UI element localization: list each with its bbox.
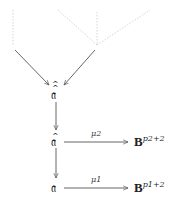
- arrow-right-to-top: [64, 50, 95, 85]
- target-middle: Bp2+2: [134, 135, 165, 148]
- arrows: [15, 50, 128, 188]
- edge-label-mu1: μ1: [91, 176, 101, 184]
- arrow-left-to-top: [15, 50, 49, 85]
- target-bottom: Bp1+2: [134, 181, 165, 194]
- node-bottom: 𝔞: [51, 182, 56, 194]
- dotted-lines: [13, 10, 150, 46]
- node-top: ^ ^ 𝔞: [51, 84, 56, 96]
- diagram-canvas: [0, 0, 181, 203]
- node-middle: ^ 𝔞: [51, 134, 56, 146]
- edge-label-mu2: μ2: [91, 130, 101, 138]
